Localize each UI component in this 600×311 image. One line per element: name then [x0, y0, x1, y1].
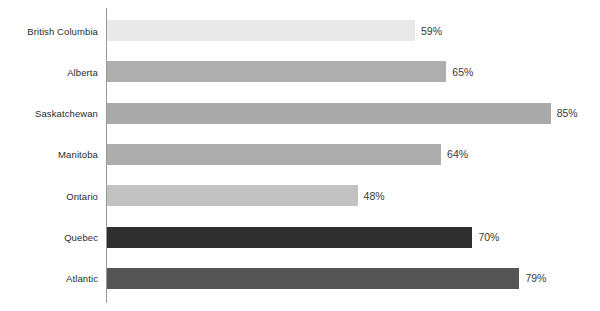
bar-value-label: 65%	[452, 66, 473, 78]
bar	[107, 20, 415, 41]
bar-value-label: 64%	[447, 148, 468, 160]
bar-value-label: 79%	[525, 272, 546, 284]
category-label: Saskatchewan	[35, 108, 98, 119]
bar	[107, 144, 441, 165]
plot-area: British Columbia59%Alberta65%Saskatchewa…	[0, 0, 600, 311]
bar	[107, 227, 472, 248]
bar-row: Saskatchewan85%	[0, 103, 600, 124]
bar-value-label: 85%	[557, 107, 578, 119]
bar-value-label: 48%	[364, 190, 385, 202]
bar	[107, 61, 446, 82]
bar-row: Ontario48%	[0, 185, 600, 206]
bar-row: Atlantic79%	[0, 268, 600, 289]
bar-row: Quebec70%	[0, 227, 600, 248]
bar	[107, 185, 358, 206]
bar	[107, 268, 519, 289]
bar-value-label: 59%	[421, 25, 442, 37]
bar-row: Manitoba64%	[0, 144, 600, 165]
category-label: British Columbia	[27, 25, 98, 36]
category-label: Ontario	[66, 190, 98, 201]
bar-row: British Columbia59%	[0, 20, 600, 41]
category-label: Alberta	[67, 66, 98, 77]
bar-row: Alberta65%	[0, 61, 600, 82]
bar-value-label: 70%	[478, 231, 499, 243]
category-label: Manitoba	[58, 149, 98, 160]
bar-chart: British Columbia59%Alberta65%Saskatchewa…	[0, 0, 600, 311]
category-label: Atlantic	[66, 273, 98, 284]
bar	[107, 103, 551, 124]
category-label: Quebec	[64, 232, 98, 243]
